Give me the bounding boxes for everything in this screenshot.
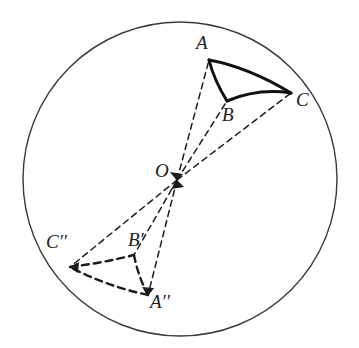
triangle-ABC bbox=[209, 60, 291, 101]
geometry-figure: A B C O C′′ B′ A′′ bbox=[0, 0, 359, 348]
label-O: O bbox=[155, 161, 169, 180]
edge-A-B bbox=[209, 60, 227, 101]
ray-O-App bbox=[148, 180, 177, 295]
ray-O-A bbox=[177, 60, 209, 180]
rays-lower bbox=[70, 180, 177, 295]
label-B-prime: B′ bbox=[128, 230, 144, 249]
label-A-double-prime: A′′ bbox=[150, 292, 170, 311]
label-B: B bbox=[222, 105, 234, 124]
label-C: C bbox=[296, 90, 309, 109]
ray-O-C bbox=[177, 93, 291, 180]
triangle-App-Bp-Cpp bbox=[70, 255, 148, 295]
ray-O-Cpp bbox=[70, 180, 177, 267]
label-C-double-prime: C′′ bbox=[46, 232, 67, 251]
edge-Cpp-Bp bbox=[70, 255, 134, 267]
label-A: A bbox=[196, 33, 208, 52]
edge-App-Cpp bbox=[70, 267, 148, 295]
rays-upper bbox=[177, 60, 291, 180]
center-arrowheads bbox=[170, 172, 184, 189]
ray-O-B bbox=[177, 101, 227, 180]
bounding-circle bbox=[23, 22, 337, 336]
diagram-canvas bbox=[0, 0, 359, 348]
